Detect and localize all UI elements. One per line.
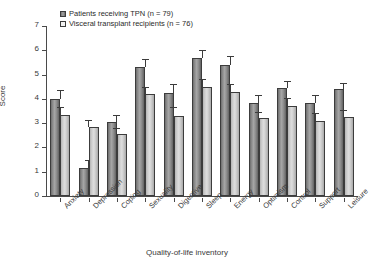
bar-anxiety-series-1 <box>60 115 70 196</box>
error-bar <box>173 107 174 116</box>
y-axis-tick-label: 5 <box>35 69 39 78</box>
bar-group <box>277 26 297 196</box>
error-bar <box>315 113 316 120</box>
error-bar <box>88 120 89 127</box>
error-bar <box>230 56 231 65</box>
x-axis-tick-mark <box>344 198 345 202</box>
y-axis-tick-label: 6 <box>35 44 39 53</box>
x-axis-tick-mark <box>259 198 260 202</box>
legend-item-tpn: Patients receiving TPN (n = 79) <box>60 9 193 19</box>
bar-sleep-series-0 <box>192 58 202 196</box>
error-bar-cap <box>199 50 206 51</box>
error-bar-cap <box>113 128 120 129</box>
error-bar-cap <box>255 112 262 113</box>
x-axis-tick-mark <box>145 198 146 202</box>
bar-digestive-series-1 <box>174 116 184 196</box>
bar-support-series-0 <box>305 103 315 197</box>
error-bar-cap <box>57 107 64 108</box>
bar-anxiety-series-0 <box>50 99 60 196</box>
bar-control-series-0 <box>277 88 287 196</box>
error-bar-cap <box>142 87 149 88</box>
bar-control-series-1 <box>287 106 297 196</box>
error-bar <box>258 112 259 118</box>
x-axis-tick-mark <box>174 198 175 202</box>
bar-optimism-series-0 <box>249 103 259 197</box>
bar-group <box>164 26 184 196</box>
error-bar-cap <box>57 90 64 91</box>
error-bar <box>145 87 146 94</box>
plot-area <box>46 26 358 196</box>
x-axis-tick-mark <box>89 198 90 202</box>
error-bar-cap <box>170 107 177 108</box>
bar-group <box>107 26 127 196</box>
error-bar <box>287 98 288 107</box>
error-bar <box>343 110 344 117</box>
x-axis-tick-mark <box>315 198 316 202</box>
y-axis-tick-label: 3 <box>35 117 39 126</box>
x-axis-tick-mark <box>230 198 231 202</box>
bar-optimism-series-1 <box>259 118 269 196</box>
bar-group <box>50 26 70 196</box>
error-bar <box>258 95 259 102</box>
error-bar <box>287 81 288 88</box>
error-bar-cap <box>284 81 291 82</box>
bar-group <box>305 26 325 196</box>
error-bar-cap <box>312 113 319 114</box>
x-axis-label: Quality-of-life inventory <box>0 248 374 257</box>
y-axis-tick-mark <box>42 196 46 197</box>
error-bar-cap <box>227 84 234 85</box>
y-axis-tick-label: 1 <box>35 166 39 175</box>
y-axis-tick-label: 2 <box>35 141 39 150</box>
error-bar-cap <box>199 79 206 80</box>
error-bar <box>60 107 61 114</box>
error-bar <box>60 90 61 99</box>
error-bar-cap <box>340 83 347 84</box>
chart-legend: Patients receiving TPN (n = 79) Visceral… <box>60 9 193 29</box>
x-axis-tick-mark <box>287 198 288 202</box>
bar-group <box>220 26 240 196</box>
bar-group <box>79 26 99 196</box>
x-axis-tick-mark <box>202 198 203 202</box>
bar-leisure-series-1 <box>344 117 354 196</box>
error-bar-cap <box>113 115 120 116</box>
error-bar <box>116 128 117 134</box>
bar-energy-series-1 <box>230 92 240 196</box>
error-bar-cap <box>340 110 347 111</box>
x-axis-tick-mark <box>117 198 118 202</box>
error-bar <box>173 84 174 93</box>
bar-depression-series-1 <box>89 127 99 196</box>
x-axis-line <box>46 196 358 197</box>
y-axis-tick-label: 0 <box>35 190 39 199</box>
legend-swatch-icon-series-0 <box>60 11 66 17</box>
error-bar <box>202 50 203 57</box>
error-bar-cap <box>227 56 234 57</box>
y-axis-label: Score <box>0 86 7 107</box>
error-bar-cap <box>170 84 177 85</box>
quality-of-life-bar-chart: 01234567 Score AnxietyDepressionCopingSe… <box>0 0 374 269</box>
error-bar <box>116 115 117 122</box>
error-bar <box>202 79 203 86</box>
bar-group <box>192 26 212 196</box>
error-bar-cap <box>85 120 92 121</box>
bar-group <box>334 26 354 196</box>
error-bar-cap <box>255 95 262 96</box>
error-bar-cap <box>142 59 149 60</box>
bar-group <box>249 26 269 196</box>
legend-label-series-0: Patients receiving TPN (n = 79) <box>69 9 173 19</box>
bar-leisure-series-0 <box>334 89 344 196</box>
error-bar-cap <box>284 98 291 99</box>
error-bar <box>230 84 231 91</box>
bar-support-series-1 <box>315 121 325 196</box>
y-axis-tick-label: 4 <box>35 93 39 102</box>
bar-group <box>135 26 155 196</box>
legend-label-series-1: Visceral transplant recipients (n = 76) <box>69 19 193 29</box>
error-bar <box>315 95 316 102</box>
error-bar <box>145 59 146 68</box>
y-axis-tick-label: 7 <box>35 20 39 29</box>
error-bar-cap <box>312 95 319 96</box>
bar-sleep-series-1 <box>202 87 212 196</box>
bar-sexuality-series-1 <box>145 94 155 196</box>
x-axis-tick-mark <box>60 198 61 202</box>
legend-swatch-icon-series-1 <box>60 21 66 27</box>
error-bar <box>343 83 344 89</box>
